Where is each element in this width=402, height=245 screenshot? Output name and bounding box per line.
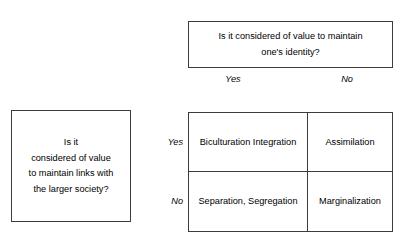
acculturation-matrix: Biculturation Integration Assimilation S… [188,112,393,232]
row-question-text: Is it considered of value to maintain li… [25,135,118,197]
clipped-caption-text [8,0,394,4]
row-header-no: No [149,196,183,206]
column-question-text: Is it considered of value to maintain on… [210,29,370,60]
row-question-line-4: the larger society? [33,184,108,194]
row-question-line-3: to maintain links with [29,168,114,178]
column-header-no: No [317,74,377,84]
matrix-cell-no-yes: Separation, Segregation [189,172,308,231]
column-question-line-2: one's identity? [261,47,319,57]
matrix-cell-yes-no: Assimilation [308,113,392,172]
row-question-box: Is it considered of value to maintain li… [11,110,131,222]
column-header-yes: Yes [203,74,263,84]
row-header-yes: Yes [149,137,183,147]
row-question-line-2: considered of value [31,153,111,163]
column-question-box: Is it considered of value to maintain on… [188,21,393,68]
matrix-cell-no-no: Marginalization [308,172,392,231]
matrix-cell-yes-yes: Biculturation Integration [189,113,308,172]
figure-canvas: Is it considered of value to maintain on… [0,0,402,245]
row-question-line-1: Is it [64,137,78,147]
column-question-line-1: Is it considered of value to maintain [218,31,362,41]
